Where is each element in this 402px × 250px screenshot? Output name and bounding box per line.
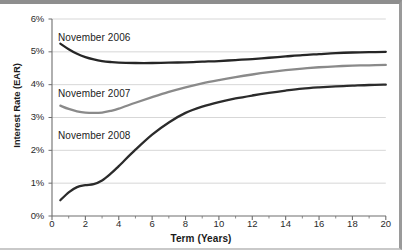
data-curves xyxy=(60,44,385,201)
x-axis-tick-marks xyxy=(49,19,386,220)
yield-curve-plot xyxy=(0,4,402,250)
chart-frame: Interest Rate (EAR) Term (Years) 0%1%2%3… xyxy=(0,0,402,250)
series-line xyxy=(60,44,385,63)
series-line xyxy=(60,65,385,113)
